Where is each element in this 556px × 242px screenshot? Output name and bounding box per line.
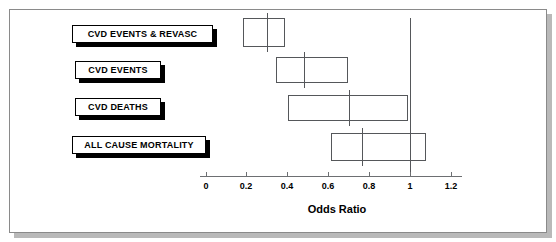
category-label-text: CVD EVENTS & REVASC xyxy=(82,29,204,39)
x-axis-line xyxy=(200,176,462,177)
x-axis-tick-label-0.4: 0.4 xyxy=(281,181,294,191)
x-axis-title: Odds Ratio xyxy=(308,203,367,215)
x-axis-tick-label-1.2: 1.2 xyxy=(445,181,458,191)
x-axis-tick-label-0: 0 xyxy=(203,181,208,191)
x-axis-tick-1 xyxy=(410,172,411,176)
ci-box-all-cause-mortality xyxy=(331,133,426,161)
ci-box-cvd-deaths xyxy=(288,95,408,121)
x-axis-tick-label-0.8: 0.8 xyxy=(363,181,376,191)
plot-area: CVD EVENTS & REVASC CVD EVENTS CVD DEATH… xyxy=(0,0,556,242)
estimate-line-all-cause-mortality xyxy=(362,128,363,166)
label-plate: CVD DEATHS xyxy=(75,98,161,116)
category-label-text: ALL CAUSE MORTALITY xyxy=(78,140,199,150)
ci-box-cvd-events xyxy=(276,57,348,83)
odds-ratio-forest-chart: CVD EVENTS & REVASC CVD EVENTS CVD DEATH… xyxy=(0,0,556,242)
x-axis-tick-label-0.6: 0.6 xyxy=(322,181,335,191)
category-label-text: CVD EVENTS xyxy=(82,65,154,75)
x-axis-tick-0 xyxy=(206,172,207,176)
x-axis-tick-0.2 xyxy=(246,172,247,176)
category-label-cvd-events-and-revasc: CVD EVENTS & REVASC xyxy=(72,25,213,43)
x-axis-tick-0.4 xyxy=(287,172,288,176)
category-label-text: CVD DEATHS xyxy=(82,102,154,112)
label-plate: CVD EVENTS xyxy=(75,61,161,79)
x-axis-tick-0.8 xyxy=(369,172,370,176)
label-plate: ALL CAUSE MORTALITY xyxy=(72,136,206,154)
ci-box-cvd-events-and-revasc xyxy=(243,18,285,47)
category-label-all-cause-mortality: ALL CAUSE MORTALITY xyxy=(72,136,206,154)
category-label-cvd-deaths: CVD DEATHS xyxy=(75,98,161,116)
label-plate: CVD EVENTS & REVASC xyxy=(72,25,213,43)
x-axis-tick-label-1: 1 xyxy=(407,181,412,191)
estimate-line-cvd-deaths xyxy=(349,90,350,126)
category-label-cvd-events: CVD EVENTS xyxy=(75,61,161,79)
estimate-line-cvd-events-and-revasc xyxy=(267,13,268,52)
x-axis-tick-0.6 xyxy=(328,172,329,176)
x-axis-tick-1.2 xyxy=(451,172,452,176)
estimate-line-cvd-events xyxy=(304,52,305,88)
x-axis-tick-label-0.2: 0.2 xyxy=(240,181,253,191)
